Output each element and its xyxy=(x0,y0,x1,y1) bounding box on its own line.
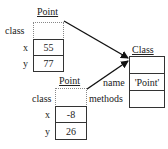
point1-title: Point xyxy=(37,7,58,17)
point1-x-value: 55 xyxy=(33,39,64,56)
point2-class-label: class xyxy=(32,94,51,104)
point2-title: Point xyxy=(59,76,80,86)
point2-y-value: 26 xyxy=(55,122,87,140)
point1-class-cell xyxy=(33,22,64,40)
class-name-label: name xyxy=(103,78,125,88)
point2-x-label: x xyxy=(45,110,50,120)
class-methods-cell xyxy=(129,90,165,108)
point2-class-cell xyxy=(55,88,87,107)
point1-x-label: x xyxy=(23,43,28,53)
point1-y-label: y xyxy=(23,59,28,69)
class-header-cell xyxy=(129,56,165,74)
point1-y-value: 77 xyxy=(33,55,64,72)
class-name-value: 'Point' xyxy=(129,73,165,91)
class-title: Class xyxy=(132,45,154,55)
point2-y-label: y xyxy=(45,127,50,137)
arrow-point1-to-class xyxy=(64,21,128,58)
point1-class-label: class xyxy=(5,26,24,36)
point2-x-value: -8 xyxy=(55,106,87,123)
class-methods-label: methods xyxy=(89,94,123,104)
